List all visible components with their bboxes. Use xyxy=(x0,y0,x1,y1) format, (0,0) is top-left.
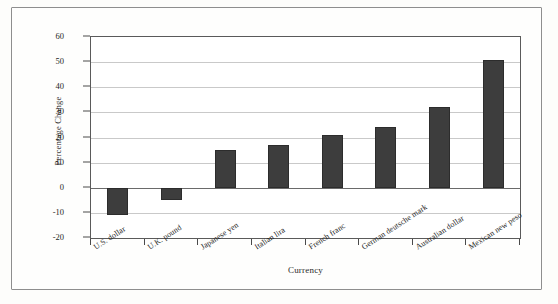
x-tick-mark xyxy=(251,239,252,245)
y-tick-label--10: -10 xyxy=(24,207,64,217)
y-tick-mark-50 xyxy=(83,61,90,62)
y-tick-mark-0 xyxy=(83,186,90,187)
y-tick-mark--20 xyxy=(83,237,90,238)
y-tick-label-60: 60 xyxy=(24,31,64,41)
y-tick-mark-30 xyxy=(83,111,90,112)
bars-group xyxy=(91,37,520,238)
y-tick-label-50: 50 xyxy=(24,56,64,66)
y-tick-mark-40 xyxy=(83,86,90,87)
x-tick-mark xyxy=(358,239,359,245)
bar xyxy=(429,107,450,187)
bar xyxy=(322,135,343,188)
bar xyxy=(268,145,289,188)
bar xyxy=(215,150,236,188)
chart-page: Percentage Change 6050403020100-10-20 U.… xyxy=(0,0,558,304)
y-tick-label--20: -20 xyxy=(24,232,64,242)
figure-frame: Percentage Change 6050403020100-10-20 U.… xyxy=(11,7,542,290)
y-tick-label-20: 20 xyxy=(24,132,64,142)
x-tick-mark xyxy=(412,239,413,245)
y-tick-label-10: 10 xyxy=(24,157,64,167)
x-tick-mark xyxy=(90,239,91,245)
y-tick-label-0: 0 xyxy=(24,182,64,192)
y-tick-mark-10 xyxy=(83,161,90,162)
bar xyxy=(375,127,396,187)
bar-chart-figure: Percentage Change 6050403020100-10-20 U.… xyxy=(34,22,546,284)
x-tick-mark xyxy=(305,239,306,245)
x-tick-mark xyxy=(144,239,145,245)
bar xyxy=(107,188,128,216)
bar xyxy=(483,60,504,188)
bar xyxy=(161,188,182,201)
y-tick-label-40: 40 xyxy=(24,81,64,91)
y-tick-mark-60 xyxy=(83,36,90,37)
x-tick-mark xyxy=(519,239,520,245)
y-tick-label-30: 30 xyxy=(24,106,64,116)
y-tick-mark-20 xyxy=(83,136,90,137)
y-tick-mark--10 xyxy=(83,211,90,212)
x-axis-title: Currency xyxy=(90,265,521,275)
plot-area xyxy=(90,36,521,239)
